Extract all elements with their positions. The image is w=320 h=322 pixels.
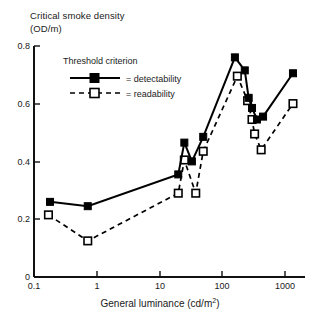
y-tick-label-0p8: 0.8 [8,41,30,51]
detectability-marker [260,113,267,120]
x-tick-label-10: 10 [140,281,180,291]
readability-marker [84,237,92,245]
detectability-marker [200,133,207,140]
detectability-marker [181,139,188,146]
legend-label-readability: = readability [126,89,175,99]
detectability-marker [249,104,256,111]
detectability-marker [241,67,248,74]
readability-marker [251,130,258,138]
detectability-marker [245,94,252,101]
x-tick-label-1: 1 [77,281,117,291]
legend-glyphs [70,74,120,98]
detectability-marker [47,198,54,205]
readability-marker [289,100,297,108]
legend-title: Threshold criterion [63,56,138,66]
readability-marker [234,72,242,80]
y-tick-label-0p4: 0.4 [8,157,30,167]
detectability-marker [188,158,195,165]
x-tick-label-100: 100 [202,281,242,291]
y-tick-label-0p2: 0.2 [8,214,30,224]
readability-marker [192,189,200,197]
plot-canvas [0,0,320,322]
x-tick-label-1000: 1000 [265,281,305,291]
detectability-marker [175,171,182,178]
legend-label-detectability: = detectability [126,74,181,84]
x-axis-title: General luminance (cd/m2) [0,297,320,309]
readability-marker [45,211,53,219]
readability-marker [257,146,265,154]
x-axis-title-tail: ) [216,298,219,309]
x-axis-title-base: General luminance (cd/m [101,298,213,309]
detectability-marker [231,54,238,61]
y-tick-label-0p6: 0.6 [8,99,30,109]
readability-line [48,76,293,241]
readability-marker [199,148,207,156]
chart-figure: Critical smoke density (OD/m) [0,0,320,322]
x-tick-label-0p1: 0.1 [14,281,54,291]
readability-marker [175,189,183,197]
detectability-marker [84,203,91,210]
detectability-marker [289,70,296,77]
